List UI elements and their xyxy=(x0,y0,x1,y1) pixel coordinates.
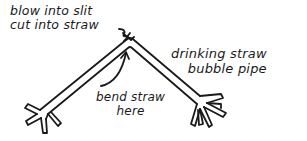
slit-mark xyxy=(124,37,134,41)
title-label: drinking straw bubble pipe xyxy=(171,46,267,76)
title-line1: drinking straw xyxy=(171,46,267,61)
blow-instruction-label: blow into slit cut into straw xyxy=(10,4,99,32)
blow-instruction-line2: cut into straw xyxy=(10,18,99,32)
title-line2: bubble pipe xyxy=(171,61,267,76)
right-split-end xyxy=(191,94,226,127)
arrow-to-slit xyxy=(119,29,130,37)
bend-instruction-line2: here xyxy=(96,104,165,118)
bend-instruction-label: bend straw here xyxy=(96,90,165,118)
bend-instruction-line1: bend straw xyxy=(96,90,165,104)
bubble-pipe-diagram: blow into slit cut into straw drinking s… xyxy=(0,0,307,141)
blow-instruction-line1: blow into slit xyxy=(10,4,99,18)
